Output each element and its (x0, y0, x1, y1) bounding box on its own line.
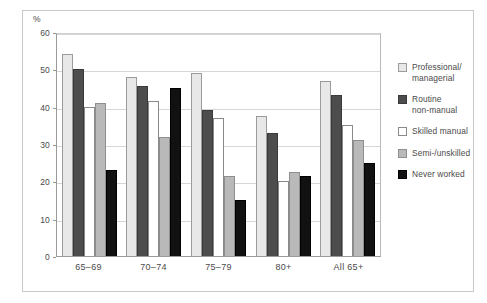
bar (191, 73, 202, 256)
y-tick-label: 50 (26, 65, 50, 75)
bar-group (122, 34, 187, 256)
y-tick-label: 40 (26, 103, 50, 113)
x-tick-label: 70–74 (121, 262, 186, 272)
y-axis-unit-label: % (33, 14, 41, 24)
bar-group (315, 34, 380, 256)
bar (353, 140, 364, 256)
y-tick-label: 60 (26, 28, 50, 38)
y-tick-mark (53, 33, 56, 34)
y-tick-label: 0 (26, 252, 50, 262)
plot-area (56, 33, 381, 257)
y-tick-label: 10 (26, 215, 50, 225)
y-tick-mark (53, 108, 56, 109)
bar (73, 69, 84, 256)
bar (331, 95, 342, 256)
legend-swatch-icon (398, 127, 407, 136)
bar (170, 88, 181, 256)
legend-item: Routine non-manual (398, 94, 478, 115)
bar (320, 81, 331, 256)
y-tick-mark (53, 220, 56, 221)
bar-group (251, 34, 316, 256)
bar (342, 125, 353, 256)
bar-groups (57, 34, 380, 256)
legend-label: Skilled manual (412, 126, 468, 137)
legend-item: Never worked (398, 169, 478, 180)
bar-group (57, 34, 122, 256)
chart-legend: Professional/ managerialRoutine non-manu… (398, 62, 478, 191)
legend-swatch-icon (398, 149, 407, 158)
x-tick-label: All 65+ (316, 262, 381, 272)
legend-label: Semi-/unskilled (412, 148, 470, 159)
bar-group (186, 34, 251, 256)
legend-swatch-icon (398, 170, 407, 179)
legend-item: Semi-/unskilled (398, 148, 478, 159)
y-tick-mark (53, 70, 56, 71)
bar (300, 176, 311, 256)
x-tick-label: 80+ (251, 262, 316, 272)
bar (364, 163, 375, 256)
legend-label: Professional/ managerial (412, 62, 462, 83)
bar (106, 170, 117, 256)
bar (256, 116, 267, 256)
bar (126, 77, 137, 256)
legend-item: Skilled manual (398, 126, 478, 137)
legend-swatch-icon (398, 63, 407, 72)
y-tick-mark (53, 145, 56, 146)
bar (224, 176, 235, 256)
bar (148, 101, 159, 256)
bar (289, 172, 300, 256)
bar (213, 118, 224, 256)
legend-label: Never worked (412, 169, 465, 180)
bar (62, 54, 73, 256)
bar (159, 137, 170, 256)
y-tick-mark (53, 182, 56, 183)
x-tick-label: 75–79 (186, 262, 251, 272)
y-tick-label: 30 (26, 140, 50, 150)
bar (137, 86, 148, 256)
y-tick-label: 20 (26, 177, 50, 187)
bar (95, 103, 106, 256)
bar (84, 107, 95, 256)
legend-swatch-icon (398, 95, 407, 104)
legend-item: Professional/ managerial (398, 62, 478, 83)
bar (278, 181, 289, 256)
legend-label: Routine non-manual (412, 94, 457, 115)
chart-figure: % 0102030405060 65–6970–7475–7980+All 65… (0, 0, 487, 303)
x-tick-label: 65–69 (56, 262, 121, 272)
bar (235, 200, 246, 256)
y-tick-mark (53, 257, 56, 258)
bar (202, 110, 213, 256)
bar (267, 133, 278, 256)
